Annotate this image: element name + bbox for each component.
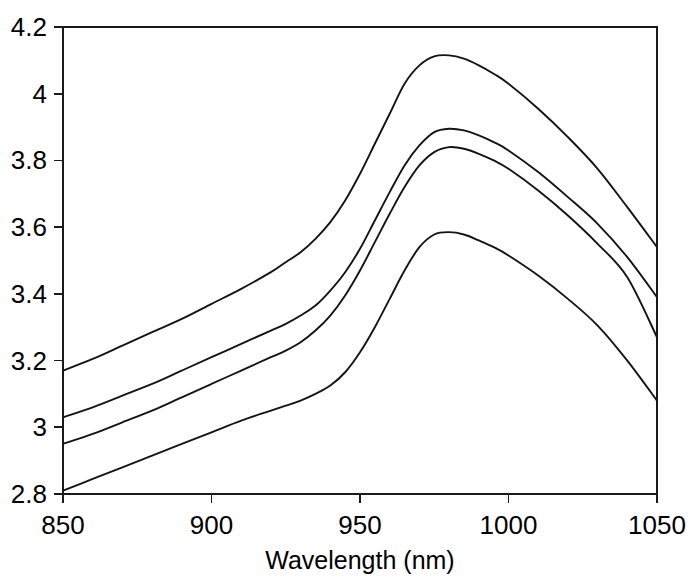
y-tick-label: 3 bbox=[33, 412, 47, 442]
x-tick-label: 900 bbox=[190, 510, 233, 540]
x-tick-label: 850 bbox=[41, 510, 84, 540]
y-axis-tick-labels: 2.833.23.43.63.844.2 bbox=[11, 12, 47, 509]
plot-border bbox=[63, 27, 657, 494]
chart-container: 2.833.23.43.63.844.2 85090095010001050 W… bbox=[0, 0, 693, 578]
y-tick-label: 3.2 bbox=[11, 346, 47, 376]
y-tick-label: 3.6 bbox=[11, 212, 47, 242]
data-curves bbox=[63, 55, 657, 491]
x-tick-label: 1050 bbox=[628, 510, 686, 540]
y-tick-label: 3.4 bbox=[11, 279, 47, 309]
line-chart-plot: 2.833.23.43.63.844.2 85090095010001050 W… bbox=[0, 0, 693, 578]
plot-frame bbox=[63, 27, 657, 494]
tick-marks bbox=[54, 27, 657, 503]
x-axis-title: Wavelength (nm) bbox=[265, 546, 454, 574]
y-tick-label: 3.8 bbox=[11, 145, 47, 175]
x-axis-tick-labels: 85090095010001050 bbox=[41, 510, 686, 540]
x-tick-label: 1000 bbox=[480, 510, 538, 540]
x-tick-label: 950 bbox=[338, 510, 381, 540]
y-tick-label: 4.2 bbox=[11, 12, 47, 42]
y-tick-label: 4 bbox=[33, 79, 47, 109]
data-curve-curve-3 bbox=[63, 147, 657, 444]
y-tick-label: 2.8 bbox=[11, 479, 47, 509]
data-curve-curve-1 bbox=[63, 55, 657, 371]
